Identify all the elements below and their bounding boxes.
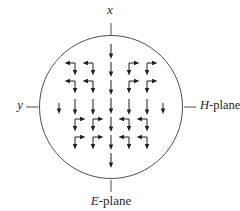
arrowhead-down [91,110,95,116]
arrowhead-down [109,163,113,169]
arrowhead-down [57,109,61,115]
arrowhead-down [109,90,113,96]
arrowhead-down [91,70,95,76]
arrowhead-down [73,144,77,150]
arrowhead-down [91,88,95,94]
arrowhead-horizontal [98,117,104,121]
arrowhead-horizontal [65,79,71,83]
arrowhead-down [145,110,149,116]
arrowhead-down [127,70,131,76]
arrowhead-down [127,126,131,132]
arrowhead-horizontal [83,61,89,65]
arrowhead-down [109,109,113,115]
arrowhead-down [73,126,77,132]
arrowhead-down [91,144,95,150]
e-plane-suffix: -plane [99,193,131,208]
arrowhead-horizontal [83,79,89,83]
arrowhead-down [127,144,131,150]
aperture-field-figure: x y H-plane E-plane [0,0,240,211]
arrowhead-horizontal [119,135,125,139]
arrowhead-down [109,145,113,151]
arrowhead-down [145,70,149,76]
arrowhead-horizontal [65,61,71,65]
arrowhead-down [145,126,149,132]
x-axis-label: x [100,3,120,17]
arrowhead-down [127,110,131,116]
h-plane-suffix: -plane [209,98,240,112]
arrowhead-horizontal [80,117,86,121]
y-axis-label: y [6,98,23,112]
h-plane-label: H-plane [200,99,240,113]
arrowhead-down [73,88,77,94]
arrowhead-down [161,109,165,115]
arrowhead-horizontal [119,117,125,121]
arrowhead-down [73,110,77,116]
arrowhead-horizontal [80,135,86,139]
arrowhead-down [109,54,113,60]
arrowhead-horizontal [134,79,140,83]
arrowhead-down [91,126,95,132]
e-plane-label: E-plane [76,194,146,208]
arrowhead-horizontal [98,135,104,139]
arrowhead-down [109,127,113,133]
x-axis-symbol: x [107,2,113,17]
h-plane-symbol: H [200,98,209,112]
arrowhead-down [73,70,77,76]
arrowhead-down [127,88,131,94]
arrowhead-horizontal [152,61,158,65]
y-axis-symbol: y [17,97,23,112]
arrowhead-horizontal [137,135,143,139]
e-plane-symbol: E [91,193,99,208]
arrowhead-horizontal [137,117,143,121]
arrowhead-horizontal [152,79,158,83]
arrowhead-down [109,72,113,78]
arrowhead-down [145,88,149,94]
arrowhead-horizontal [134,61,140,65]
arrowhead-down [145,144,149,150]
